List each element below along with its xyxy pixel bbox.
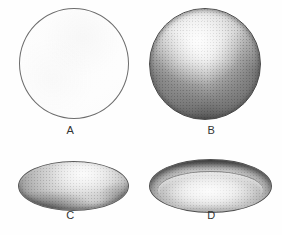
figure-panel-b: B <box>141 0 282 117</box>
rim-shadow-d <box>150 160 271 212</box>
panel-label-b: B <box>141 124 282 136</box>
shape-circle-outline-a <box>19 8 129 119</box>
figure-panel-a: A <box>0 0 141 117</box>
figure-panel-d: D <box>141 143 282 235</box>
shape-concave-dish-d <box>149 159 272 213</box>
shape-shaded-sphere-b <box>149 8 261 120</box>
figure-plate: A B C D <box>0 0 282 235</box>
rim-shadow-b <box>150 9 260 119</box>
rim-shadow-c <box>19 162 128 210</box>
panel-label-a: A <box>0 124 141 136</box>
shape-shaded-ellipsoid-c <box>18 161 129 211</box>
panel-label-d: D <box>141 209 282 221</box>
panel-label-c: C <box>0 209 141 221</box>
figure-panel-c: C <box>0 143 141 235</box>
